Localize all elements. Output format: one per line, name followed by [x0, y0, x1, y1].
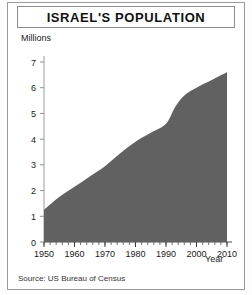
y-tick-label-4: 4 [31, 135, 36, 145]
x-tick-label-1980: 1980 [125, 249, 145, 259]
x-tick-label-2000: 2000 [186, 249, 206, 259]
y-tick-label-6: 6 [31, 83, 36, 93]
y-tick-label-7: 7 [31, 58, 36, 68]
chart-figure: ISRAEL'S POPULATION Millions 01234567 19… [0, 0, 252, 295]
x-axis-label: Year [205, 254, 223, 264]
y-tick-label-0: 0 [31, 238, 36, 248]
plot-area: 01234567 1950196019701980199020002010 [0, 0, 252, 295]
y-tick-label-1: 1 [31, 212, 36, 222]
x-tick-label-1950: 1950 [34, 249, 54, 259]
y-tick-group: 01234567 [31, 58, 44, 248]
area-series-israel-population [44, 72, 227, 242]
source-note: Source: US Bureau of Census [18, 274, 125, 283]
y-tick-label-3: 3 [31, 160, 36, 170]
x-tick-label-1960: 1960 [64, 249, 84, 259]
y-tick-label-2: 2 [31, 186, 36, 196]
x-tick-label-1970: 1970 [95, 249, 115, 259]
x-tick-label-1990: 1990 [156, 249, 176, 259]
y-tick-label-5: 5 [31, 109, 36, 119]
